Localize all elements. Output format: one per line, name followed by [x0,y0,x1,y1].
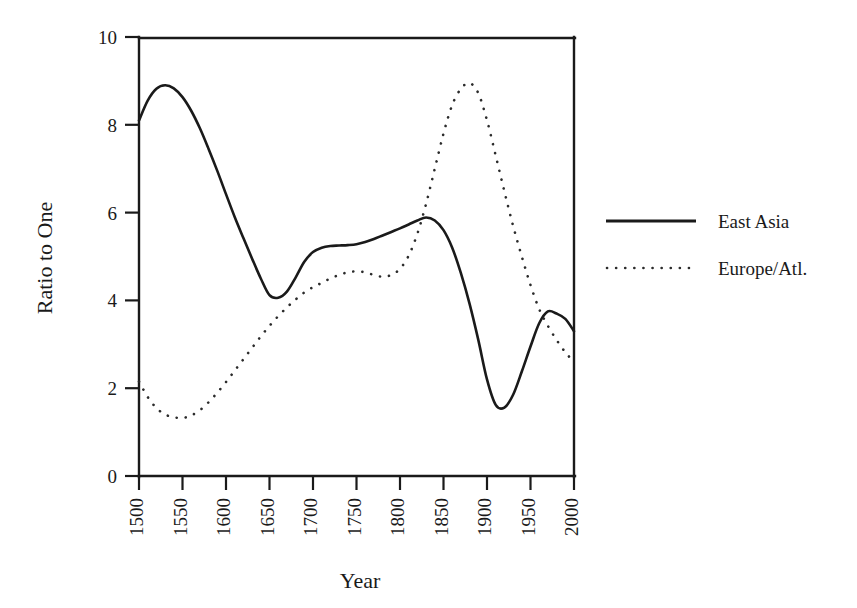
x-tick-label: 1900 [474,498,495,536]
x-tick-label: 2000 [561,498,582,536]
y-tick-label: 6 [108,203,118,224]
y-axis-title: Ratio to One [32,202,57,314]
y-tick-label: 4 [108,290,118,311]
y-tick-label: 2 [108,378,118,399]
x-tick-label: 1500 [126,498,147,536]
chart-figure: 0246810 15001550160016501700175018001850… [0,0,857,608]
plot-frame [139,37,575,477]
x-tick-label: 1950 [518,498,539,536]
legend: East Asia Europe/Atl. [606,211,807,279]
y-axis-ticks: 0246810 [98,27,139,487]
series-line-east-asia [139,85,574,408]
x-tick-label: 1700 [300,498,321,536]
y-tick-label: 10 [98,27,117,48]
chart-canvas: 0246810 15001550160016501700175018001850… [0,0,857,608]
x-tick-label: 1800 [387,498,408,536]
x-axis-title: Year [340,568,381,593]
legend-label-europe-atl: Europe/Atl. [718,258,807,279]
x-tick-label: 1550 [170,498,191,536]
legend-label-east-asia: East Asia [718,211,790,232]
x-axis-ticks: 1500155016001650170017501800185019001950… [126,476,582,536]
y-tick-label: 0 [108,466,118,487]
legend-entry-europe-atl: Europe/Atl. [607,258,807,279]
series-line-europe-atl [139,83,574,418]
x-tick-label: 1750 [344,498,365,536]
x-tick-label: 1600 [213,498,234,536]
x-tick-label: 1850 [431,498,452,536]
legend-entry-east-asia: East Asia [606,211,790,232]
x-tick-label: 1650 [257,498,278,536]
y-tick-label: 8 [108,115,118,136]
data-series-group [139,83,574,418]
